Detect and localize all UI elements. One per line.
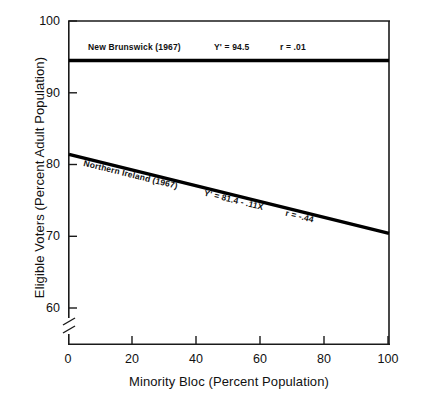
x-axis-title: Minority Bloc (Percent Population) bbox=[68, 374, 390, 389]
y-tick-marks bbox=[69, 21, 77, 308]
chart-figure: Eligible Voters (Percent Adult Populatio… bbox=[0, 0, 422, 408]
annotation-equation-new-brunswick: Y' = 94.5 bbox=[214, 42, 249, 52]
axis-frame bbox=[68, 21, 390, 345]
y-axis-break-icon bbox=[63, 318, 75, 333]
x-tick-marks bbox=[132, 336, 388, 344]
annotation-correlation-new-brunswick: r = .01 bbox=[280, 42, 306, 52]
plot-canvas bbox=[0, 0, 422, 408]
annotation-label-new-brunswick: New Brunswick (1967) bbox=[88, 42, 181, 52]
